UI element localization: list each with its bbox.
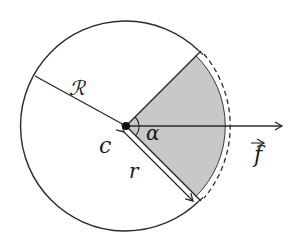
- label-force: f: [252, 142, 266, 167]
- circle-sector-diagram: ℛ c α r f: [0, 0, 295, 250]
- label-angle: α: [146, 121, 160, 145]
- label-small-radius: r: [129, 159, 140, 183]
- label-big-radius: ℛ: [69, 76, 87, 100]
- label-center: c: [99, 133, 111, 158]
- center-point: [122, 122, 130, 130]
